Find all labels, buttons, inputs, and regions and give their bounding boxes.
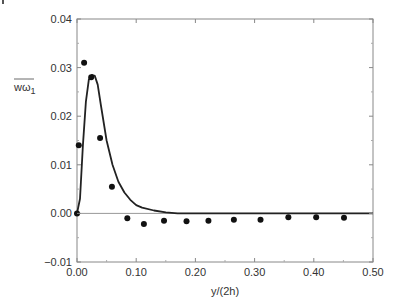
data-point <box>88 74 94 80</box>
data-point <box>285 214 291 220</box>
data-point <box>161 218 167 224</box>
svg-text:wω1: wω1 <box>13 81 36 96</box>
chart: 0.000.100.200.300.400.50 −0.010.000.010.… <box>0 0 399 308</box>
data-point <box>205 218 211 224</box>
y-tick-label: 0.02 <box>51 110 72 122</box>
data-point <box>231 217 237 223</box>
x-axis-label: y/(2h) <box>211 285 239 297</box>
y-axis-label-main: wω <box>13 81 31 93</box>
x-tick-label: 0.50 <box>362 266 383 278</box>
x-axis-ticks: 0.000.100.200.300.400.50 <box>66 19 383 278</box>
y-axis-label: wω1 <box>13 79 36 96</box>
data-point <box>97 135 103 141</box>
data-point <box>109 184 115 190</box>
data-point <box>81 60 87 66</box>
y-tick-label: 0.00 <box>51 207 72 219</box>
data-point <box>258 217 264 223</box>
x-tick-label: 0.10 <box>125 266 146 278</box>
data-point <box>76 142 82 148</box>
y-tick-label: −0.01 <box>44 256 72 268</box>
y-tick-label: 0.03 <box>51 62 72 74</box>
data-point <box>341 215 347 221</box>
x-tick-label: 0.40 <box>303 266 324 278</box>
data-point <box>124 215 130 221</box>
x-tick-label: 0.30 <box>244 266 265 278</box>
y-tick-label: 0.01 <box>51 159 72 171</box>
plot-frame <box>77 19 373 262</box>
data-points <box>74 60 347 227</box>
data-point <box>141 221 147 227</box>
y-axis-label-sub: 1 <box>31 86 36 96</box>
data-point <box>313 214 319 220</box>
data-point <box>184 218 190 224</box>
model-curve <box>77 75 373 214</box>
x-tick-label: 0.20 <box>185 266 206 278</box>
y-axis-ticks: −0.010.000.010.020.030.04 <box>44 13 373 268</box>
y-tick-label: 0.04 <box>51 13 72 25</box>
